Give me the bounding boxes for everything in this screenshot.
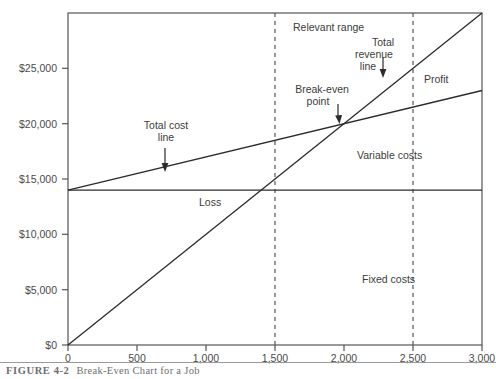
y-tick-label-15000: $15,000 (19, 173, 57, 185)
profit-label: Profit (424, 73, 449, 85)
y-axis-ticks (62, 68, 68, 345)
figure-caption-number: FIGURE 4-2 (6, 365, 69, 376)
total-cost-line-label-2: line (158, 131, 175, 143)
figure-caption: FIGURE 4-2Break-Even Chart for a Job (6, 365, 490, 376)
caption-divider-rule (0, 362, 496, 363)
total-cost-line-label-1: Total cost (144, 119, 188, 131)
y-axis-tick-labels: $0 $5,000 $10,000 $15,000 $20,000 $25,00… (19, 62, 57, 351)
variable-costs-label: Variable costs (357, 149, 422, 161)
total-revenue-line-label-2: revenue (355, 48, 393, 60)
figure-caption-text: Break-Even Chart for a Job (76, 365, 199, 376)
y-tick-label-10000: $10,000 (19, 228, 57, 240)
figure-container: $0 $5,000 $10,000 $15,000 $20,000 $25,00… (0, 0, 496, 379)
y-tick-label-20000: $20,000 (19, 118, 57, 130)
y-tick-label-5000: $5,000 (25, 284, 57, 296)
y-tick-label-0: $0 (45, 339, 57, 351)
break-even-chart: $0 $5,000 $10,000 $15,000 $20,000 $25,00… (0, 0, 496, 379)
break-even-point-label-1: Break-even (295, 83, 349, 95)
break-even-point-label-2: point (307, 95, 330, 107)
x-axis-ticks (68, 345, 482, 351)
y-tick-label-25000: $25,000 (19, 62, 57, 74)
loss-label: Loss (199, 196, 221, 208)
total-revenue-line-label-3: line (360, 60, 377, 72)
fixed-costs-label: Fixed costs (362, 273, 415, 285)
relevant-range-label: Relevant range (293, 21, 364, 33)
total-revenue-line-label-1: Total (372, 36, 394, 48)
